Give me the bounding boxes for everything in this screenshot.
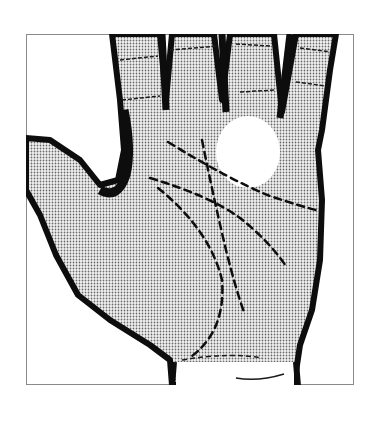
palm-illustration <box>0 0 374 426</box>
wrist <box>176 362 294 386</box>
finger-gap-1 <box>162 34 166 110</box>
finger-gap-2 <box>222 34 226 112</box>
highlight-spot <box>216 116 280 188</box>
